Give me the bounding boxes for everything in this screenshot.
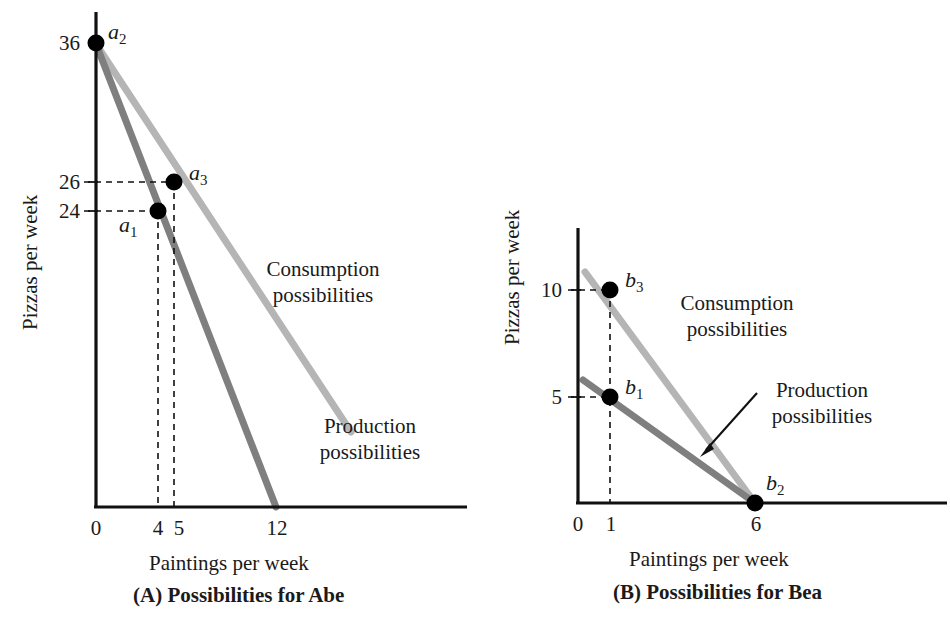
panel-a-point-a3-sub: 3 [200,172,207,188]
panel-a-consumption-label-line1: Consumption [266,257,379,281]
panel-b-point-b1-letter: b [625,374,636,399]
panel-a-ytick-label-36: 36 [32,31,80,56]
panel-a-point-label-a3: a3 [189,160,207,189]
panel-a-point-a2 [88,35,105,52]
panel-b-point-label-b1: b1 [625,374,643,403]
panel-b-point-b2 [747,495,764,512]
panel-b-point-b2-sub: 2 [777,482,784,498]
panel-b-consumption-label-line2: possibilities [687,317,787,341]
panel-a-point-label-a2: a2 [108,19,126,48]
panel-b-point-label-b3: b3 [625,267,643,296]
panel-a-point-a2-letter: a [108,19,119,44]
panel-b-production-label: Production possibilities [742,378,902,429]
panel-a-y-axis-title: Pizzas per week [18,195,43,330]
panel-a-x-axis-title: Paintings per week [149,551,309,576]
panel-b-point-b2-letter: b [766,470,777,495]
panel-a-consumption-label-line2: possibilities [273,283,373,307]
panel-a-production-label-line2: possibilities [320,440,420,464]
panel-a-point-a1-sub: 1 [130,224,137,240]
panel-a-point-a2-sub: 2 [119,31,126,47]
panel-a-xtick-label-0: 0 [81,516,111,541]
panel-b-consumption-label-line1: Consumption [680,291,793,315]
economics-figure: 36 26 24 0 4 5 12 Pizzas per week Painti… [0,0,950,629]
panel-a-xtick-label-12: 12 [258,516,296,541]
panel-a-point-a3-letter: a [189,160,200,185]
panel-a-production-label: Production possibilities [290,414,450,465]
panel-b-ytick-label-5: 5 [514,385,562,410]
panel-b-x-axis-title: Paintings per week [629,547,789,572]
panel-a-point-a1-letter: a [119,212,130,237]
panel-b-point-b1 [602,389,619,406]
panel-a-xtick-label-5: 5 [164,516,194,541]
panel-b-y-axis-title: Pizzas per week [500,210,525,345]
panel-a-ytick-label-26: 26 [32,170,80,195]
panel-b-production-label-line1: Production [776,378,868,402]
panel-b-xtick-label-1: 1 [596,512,626,537]
panel-a-point-a1 [150,203,167,220]
panel-a-production-label-line1: Production [324,414,416,438]
panel-a-consumption-label: Consumption possibilities [238,257,408,308]
panel-b-consumption-label: Consumption possibilities [652,291,822,342]
panel-b-point-label-b2: b2 [766,470,784,499]
panel-b-point-b3-letter: b [625,267,636,292]
panel-b-caption: (B) Possibilities for Bea [613,580,822,605]
panel-a-point-a3 [166,174,183,191]
panel-a-point-label-a1: a1 [119,212,137,241]
panel-b-point-b3 [602,282,619,299]
panel-b-xtick-label-6: 6 [741,512,771,537]
panel-b-xtick-label-0: 0 [563,512,593,537]
panel-b-production-label-line2: possibilities [772,404,872,428]
panel-b-point-b1-sub: 1 [636,386,643,402]
panel-a-caption: (A) Possibilities for Abe [133,583,344,608]
panel-b-point-b3-sub: 3 [636,279,643,295]
